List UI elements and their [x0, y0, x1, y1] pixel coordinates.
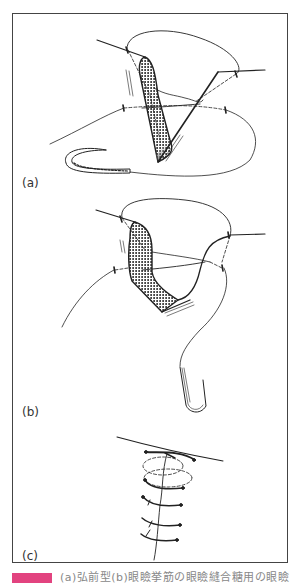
caption-marker	[12, 573, 52, 583]
panel-c-drawing	[117, 437, 223, 560]
panel-c-label: (c)	[22, 549, 38, 563]
figure-illustration: (a) (b)	[0, 0, 301, 583]
caption-text: (a)弘前型(b)眼瞼挙筋の眼瞼縫合糖用の眼瞼	[60, 568, 289, 583]
panel-b-label: (b)	[22, 405, 39, 419]
panel-b-drawing	[62, 199, 265, 412]
figure-caption: (a)弘前型(b)眼瞼挙筋の眼瞼縫合糖用の眼瞼	[0, 566, 301, 583]
panel-a-label: (a)	[22, 176, 39, 190]
panel-a-drawing	[50, 31, 265, 176]
